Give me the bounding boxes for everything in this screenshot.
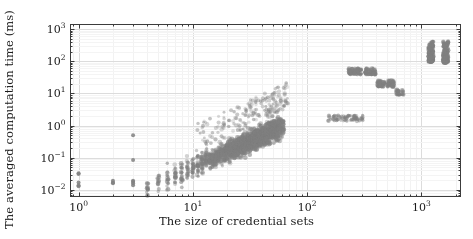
y-axis-label-container: The averaged computation time (ms) (0, 0, 18, 239)
y-tick-label: 10−1 (40, 151, 65, 164)
y-tick-label: 100 (47, 119, 66, 132)
x-axis-label: The size of credential sets (0, 214, 473, 228)
scatter-plot-figure: The averaged computation time (ms) The s… (0, 0, 473, 239)
x-tick-label: 102 (298, 201, 317, 214)
y-tick-label: 102 (47, 55, 66, 68)
y-tick-label: 10−2 (40, 183, 65, 196)
y-tick-label: 103 (47, 23, 66, 36)
x-tick-label: 100 (69, 201, 88, 214)
x-tick-label: 101 (183, 201, 202, 214)
y-axis-label: The averaged computation time (ms) (0, 0, 18, 239)
y-tick-label: 101 (47, 87, 66, 100)
x-tick-label: 103 (412, 201, 431, 214)
